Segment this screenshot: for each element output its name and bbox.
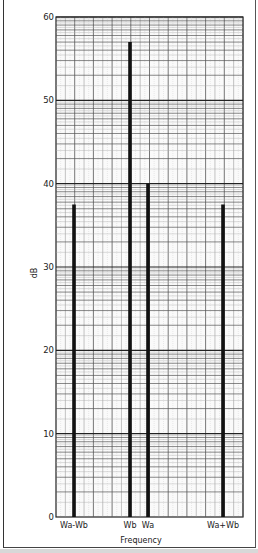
y-tick-label: 60 xyxy=(43,12,54,22)
y-axis-label: dB xyxy=(30,268,39,279)
x-category-label: Wa xyxy=(142,521,154,530)
y-tick-label: 50 xyxy=(43,95,54,105)
bar-wa-wb xyxy=(72,205,76,518)
bar-wa xyxy=(146,184,150,517)
y-tick-label: 40 xyxy=(43,179,54,189)
bar-wb xyxy=(128,42,132,517)
y-tick-label: 0 xyxy=(49,512,54,522)
x-axis-label: Frequency xyxy=(120,536,162,545)
y-tick-label: 30 xyxy=(43,262,54,272)
x-category-label: Wa+Wb xyxy=(207,521,239,530)
y-axis-ticks: 0102030405060 xyxy=(43,12,54,522)
spectrum-chart: 0102030405060 Wa-WbWbWaWa+Wb dB Frequenc… xyxy=(0,0,258,553)
y-tick-label: 20 xyxy=(43,345,54,355)
x-axis-categories: Wa-WbWbWaWa+Wb xyxy=(60,521,239,530)
bar-wa-wb xyxy=(221,205,225,518)
y-tick-label: 10 xyxy=(43,429,54,439)
x-category-label: Wa-Wb xyxy=(60,521,88,530)
x-category-label: Wb xyxy=(124,521,137,530)
